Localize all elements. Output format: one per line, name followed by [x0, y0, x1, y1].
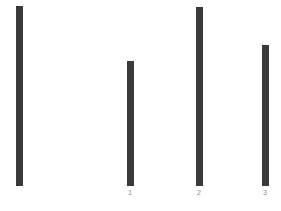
x-tick-label-3: 3: [258, 189, 272, 197]
bar-0[interactable]: [16, 6, 23, 186]
bar-1[interactable]: [127, 61, 134, 186]
bar-chart: 1 2 3: [0, 0, 281, 211]
bar-2[interactable]: [196, 7, 203, 186]
plot-area: [0, 0, 281, 186]
x-tick-label-1: 1: [123, 189, 137, 197]
x-tick-label-2: 2: [192, 189, 206, 197]
bar-3[interactable]: [262, 45, 269, 186]
